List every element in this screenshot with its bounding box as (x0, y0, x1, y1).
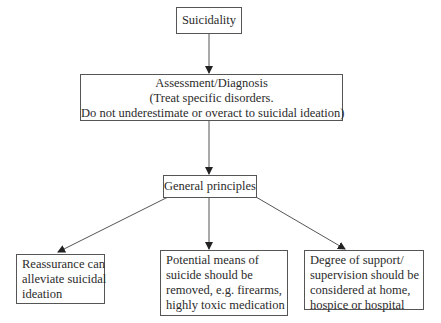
node-text: Reassurance can (22, 257, 104, 272)
node-text: hospice or hospital (310, 298, 423, 313)
node-text: Assessment/Diagnosis (81, 76, 342, 91)
node-text: Suicidality (177, 13, 241, 28)
node-text: highly toxic medication (166, 298, 287, 313)
node-suicidality: Suicidality (176, 7, 242, 34)
arrow-principles-to-support (256, 197, 345, 249)
node-text: alleviate suicidal (22, 272, 104, 287)
node-text: (Treat specific disorders. (81, 91, 342, 106)
node-support: Degree of support/ supervision should be… (304, 250, 424, 310)
node-text: General principles (164, 179, 256, 194)
node-text: Do not underestimate or overact to suici… (81, 106, 342, 121)
node-means-removal: Potential means of suicide should be rem… (160, 250, 288, 316)
node-text: Potential means of (166, 253, 287, 268)
node-text: removed, e.g. firearms, (166, 283, 287, 298)
node-text: supervision should be (310, 268, 423, 283)
node-text: ideation (22, 287, 104, 302)
node-text: suicide should be (166, 268, 287, 283)
node-text: considered at home, (310, 283, 423, 298)
node-text: Degree of support/ (310, 253, 423, 268)
node-general-principles: General principles (163, 175, 257, 198)
node-reassurance: Reassurance can alleviate suicidal ideat… (16, 254, 105, 304)
node-assessment: Assessment/Diagnosis (Treat specific dis… (80, 74, 343, 121)
arrow-principles-to-reassurance (58, 197, 168, 252)
